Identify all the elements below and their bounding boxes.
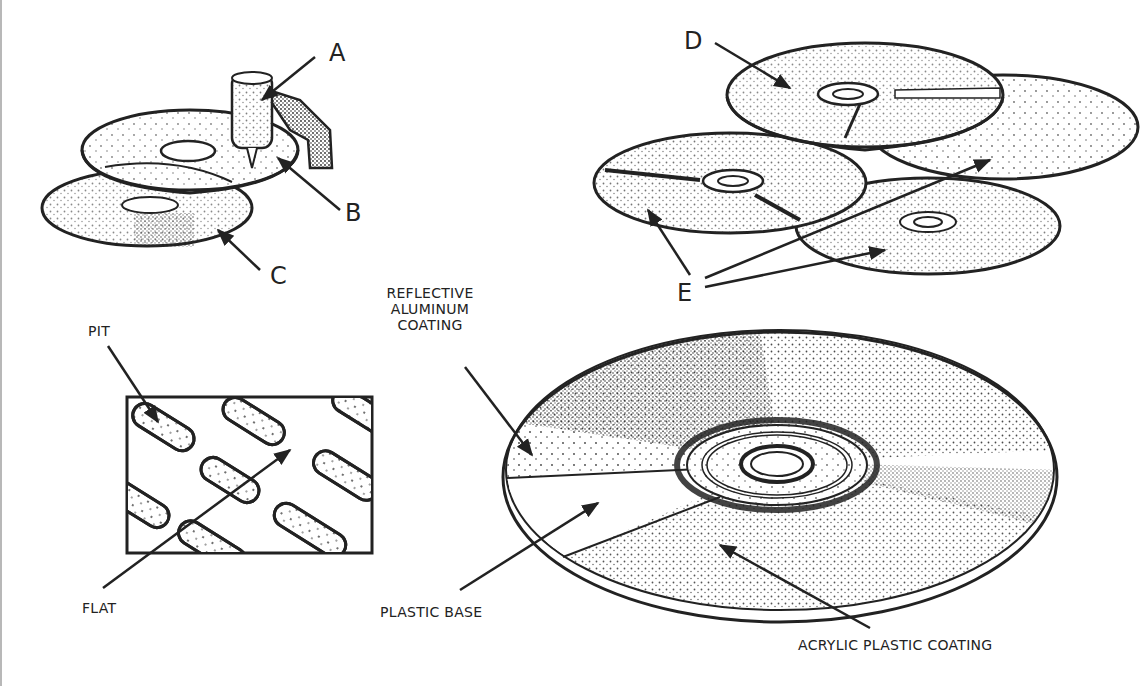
arrow-c bbox=[218, 230, 260, 270]
label-pit: PIT bbox=[88, 323, 110, 339]
pit-detail-panel bbox=[107, 384, 399, 576]
label-reflective-line-2: ALUMINUM bbox=[370, 301, 490, 317]
stacked-discs-panel bbox=[594, 43, 1138, 274]
label-d: D bbox=[684, 28, 703, 56]
label-plastic-base: PLASTIC BASE bbox=[380, 604, 482, 620]
arrow-reflective-coating bbox=[465, 367, 532, 455]
label-reflective-line-3: COATING bbox=[370, 317, 490, 333]
label-c: C bbox=[270, 263, 287, 291]
label-acrylic-plastic-coating: ACRYLIC PLASTIC COATING bbox=[798, 637, 993, 653]
label-b: B bbox=[345, 200, 362, 228]
cd-diagram-illustration bbox=[0, 0, 1141, 686]
label-e: E bbox=[677, 280, 692, 308]
arrow-e-3 bbox=[705, 250, 885, 287]
label-flat: FLAT bbox=[82, 600, 116, 616]
cd-layers-panel bbox=[500, 320, 1060, 640]
label-reflective-aluminum-coating: REFLECTIVE ALUMINUM COATING bbox=[370, 285, 490, 333]
label-reflective-line-1: REFLECTIVE bbox=[370, 285, 490, 301]
label-a: A bbox=[329, 40, 346, 68]
mastering-panel bbox=[42, 72, 332, 247]
